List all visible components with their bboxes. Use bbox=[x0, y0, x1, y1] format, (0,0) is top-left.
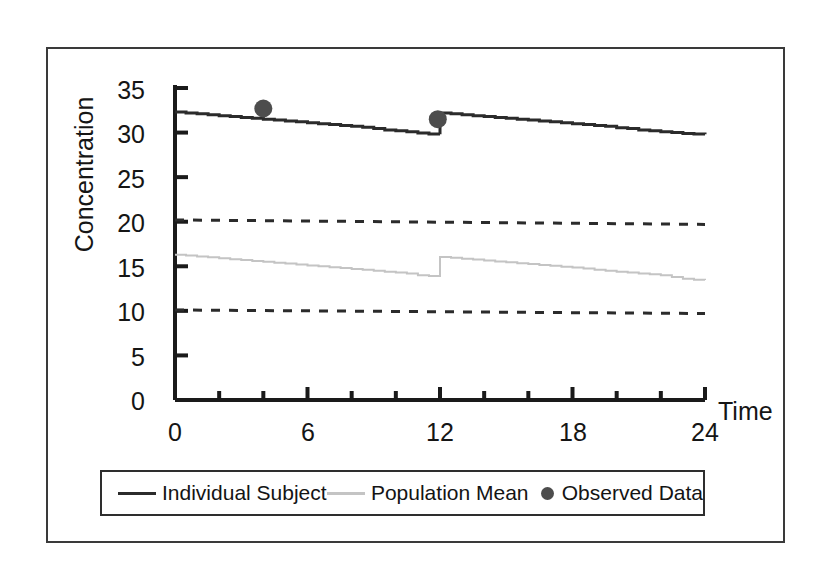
chart-figure: Concentration 35 30 25 20 15 10 5 0 0 6 … bbox=[0, 0, 823, 575]
observed-data-point bbox=[254, 100, 272, 118]
series-line-lower-reference bbox=[175, 310, 705, 314]
series-line-population-mean bbox=[175, 255, 705, 280]
observed-data-point bbox=[429, 110, 447, 128]
points-layer bbox=[254, 100, 446, 129]
series-layer bbox=[175, 112, 705, 313]
plot-canvas bbox=[46, 47, 785, 543]
series-line-upper-reference bbox=[175, 220, 705, 224]
